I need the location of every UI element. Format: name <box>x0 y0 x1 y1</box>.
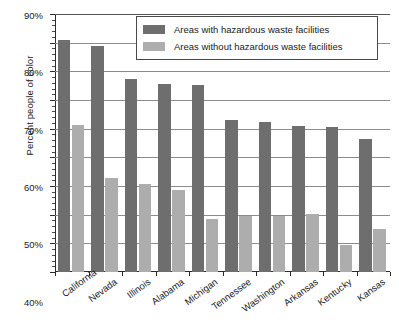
bar-kentucky-series-1 <box>340 245 353 272</box>
legend-swatch-icon-series-1 <box>143 42 165 51</box>
bar-tennessee-series-0 <box>225 120 238 273</box>
bar-california-series-0 <box>58 40 71 272</box>
legend-swatch-icon-series-0 <box>143 25 165 34</box>
bar-kansas-series-1 <box>373 229 386 272</box>
bar-tennessee-series-1 <box>239 216 252 272</box>
y-axis-title: Percent people of color <box>24 31 35 181</box>
bar-michigan-series-1 <box>206 219 219 272</box>
bar-nevada-series-0 <box>91 46 104 272</box>
legend-label-series-0: Areas with hazardous waste facilities <box>174 24 329 35</box>
bar-nevada-series-1 <box>105 178 118 272</box>
bar-washington-series-1 <box>273 216 286 272</box>
bar-washington-series-0 <box>259 122 272 272</box>
bar-illinois-series-1 <box>139 184 152 272</box>
legend-item-with-facilities: Areas with hazardous waste facilities <box>143 21 371 38</box>
y-axis-tick-label: 40% <box>24 296 43 307</box>
bar-illinois-series-0 <box>125 79 138 273</box>
bar-alabama-series-1 <box>172 190 185 272</box>
y-axis-tick-label: 50% <box>24 239 43 250</box>
bar-kansas-series-0 <box>359 139 372 272</box>
bar-chart: Percent people of color 90%80%70%60%50%4… <box>0 0 399 330</box>
legend: Areas with hazardous waste facilities Ar… <box>136 16 378 60</box>
bar-arkansas-series-0 <box>292 126 305 272</box>
legend-label-series-1: Areas without hazardous waste facilities <box>174 41 342 52</box>
legend-item-without-facilities: Areas without hazardous waste facilities <box>143 38 371 55</box>
bar-alabama-series-0 <box>158 84 171 272</box>
bar-kentucky-series-0 <box>326 127 339 272</box>
x-axis-labels: CaliforniaNevadaIllinoisAlabamaMichiganT… <box>55 272 390 330</box>
bar-california-series-1 <box>72 125 85 272</box>
y-axis-tick-label: 80% <box>24 67 43 78</box>
y-axis-tick-label: 90% <box>24 10 43 21</box>
bar-arkansas-series-1 <box>306 214 319 272</box>
x-axis-label-california: California <box>60 276 86 299</box>
x-axis-tick-mark <box>390 272 391 276</box>
y-axis-tick-label: 70% <box>24 124 43 135</box>
y-axis-tick-label: 60% <box>24 182 43 193</box>
bar-michigan-series-0 <box>192 85 205 272</box>
